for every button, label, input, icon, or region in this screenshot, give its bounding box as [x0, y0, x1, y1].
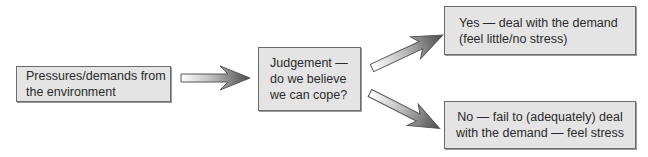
arrow-judgement-to-yes — [367, 24, 448, 79]
node-label: Yes — deal with the demand (feel little/… — [459, 15, 618, 47]
node-judgement: Judgement — do we believe we can cope? — [258, 47, 361, 111]
node-label: Judgement — do we believe we can cope? — [270, 55, 348, 103]
arrow-judgement-to-no — [365, 82, 445, 139]
node-label: No — fail to (adequately) deal with the … — [456, 109, 624, 141]
node-yes-outcome: Yes — deal with the demand (feel little/… — [444, 6, 636, 55]
node-no-outcome: No — fail to (adequately) deal with the … — [444, 101, 636, 149]
node-pressures-demands: Pressures/demands from the environment — [16, 66, 171, 102]
node-label: Pressures/demands from the environment — [26, 68, 166, 100]
arrow-pressures-to-judgement — [181, 66, 250, 90]
